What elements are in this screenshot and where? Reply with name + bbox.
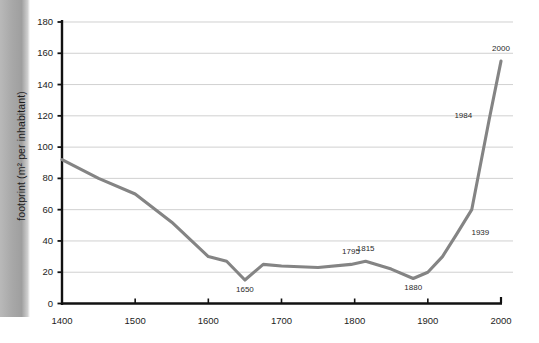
y-tick-label-120: 120 bbox=[23, 111, 53, 121]
y-tick-label-60: 60 bbox=[23, 205, 53, 215]
y-tick-label-20: 20 bbox=[23, 267, 53, 277]
y-tick-label-80: 80 bbox=[23, 173, 53, 183]
annotation-2000: 2000 bbox=[481, 45, 521, 53]
annotation-1880: 1880 bbox=[393, 284, 433, 292]
x-tick-label-1700: 1700 bbox=[259, 316, 305, 326]
annotation-1939: 1939 bbox=[460, 229, 500, 237]
y-tick-label-140: 140 bbox=[23, 80, 53, 90]
y-tick-label-0: 0 bbox=[23, 299, 53, 309]
y-tick-label-180: 180 bbox=[23, 17, 53, 27]
data-series-line bbox=[62, 61, 501, 280]
y-tick-label-40: 40 bbox=[23, 236, 53, 246]
screenshot-root: footprint (m² per inhabitant) 0204060801… bbox=[0, 0, 539, 343]
annotation-1815: 1815 bbox=[346, 245, 386, 253]
chart-plot-svg bbox=[0, 0, 539, 343]
x-tick-label-1400: 1400 bbox=[39, 316, 85, 326]
x-tick-label-1500: 1500 bbox=[112, 316, 158, 326]
x-tick-label-1600: 1600 bbox=[185, 316, 231, 326]
x-tick-label-1900: 1900 bbox=[405, 316, 451, 326]
y-tick-label-100: 100 bbox=[23, 142, 53, 152]
annotation-1984: 1984 bbox=[443, 112, 483, 120]
gridlines-group bbox=[62, 22, 513, 272]
y-tick-label-160: 160 bbox=[23, 48, 53, 58]
annotation-1650: 1650 bbox=[225, 286, 265, 294]
x-tick-label-2000: 2000 bbox=[478, 316, 524, 326]
footprint-line-chart: footprint (m² per inhabitant) 0204060801… bbox=[0, 0, 539, 343]
x-tick-label-1800: 1800 bbox=[332, 316, 378, 326]
